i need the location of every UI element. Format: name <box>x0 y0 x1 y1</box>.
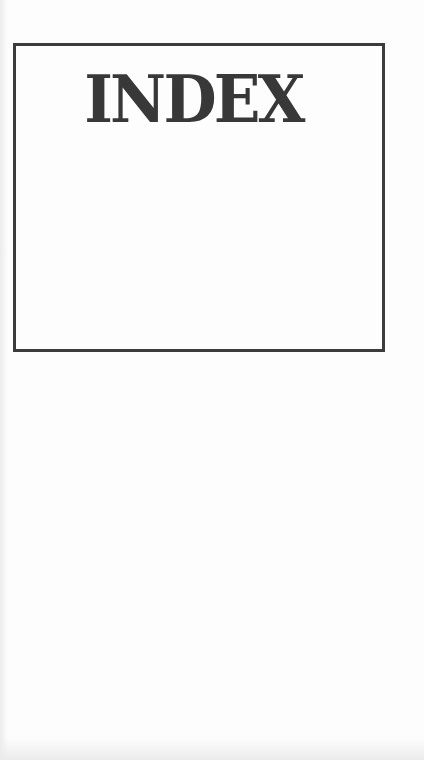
page-bottom-shadow <box>0 738 424 760</box>
page-title: INDEX <box>23 66 363 132</box>
index-title-box: INDEX <box>13 43 385 352</box>
page-edge-shadow <box>0 0 8 760</box>
